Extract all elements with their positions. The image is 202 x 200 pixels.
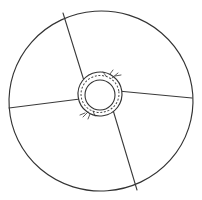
hub-inner-circle — [85, 80, 115, 110]
wheel-diagram-svg: Wheel with four spokes and annotated hub — [0, 0, 202, 200]
wheel-diagram-canvas: Wheel with four spokes and annotated hub — [0, 0, 202, 200]
